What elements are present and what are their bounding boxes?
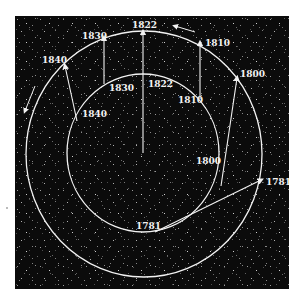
label-inner-1830: 1830: [109, 83, 134, 93]
label-inner-1810: 1810: [178, 95, 203, 105]
orbit-diagram: 1822 1830 1840 1810 1800 1781 1822 1830 …: [15, 16, 289, 289]
speck: [6, 207, 8, 209]
label-outer-1840: 1840: [42, 55, 67, 65]
label-outer-1781: 1781: [266, 177, 289, 187]
star-field-plate: 1822 1830 1840 1810 1800 1781 1822 1830 …: [15, 16, 289, 289]
label-outer-1830: 1830: [82, 31, 107, 41]
label-outer-1822: 1822: [132, 20, 157, 30]
label-inner-1781: 1781: [136, 221, 161, 231]
label-outer-1810: 1810: [205, 38, 230, 48]
label-inner-1800: 1800: [196, 156, 221, 166]
label-inner-1840: 1840: [82, 109, 107, 119]
label-outer-1800: 1800: [240, 69, 265, 79]
label-inner-1822: 1822: [148, 79, 173, 89]
